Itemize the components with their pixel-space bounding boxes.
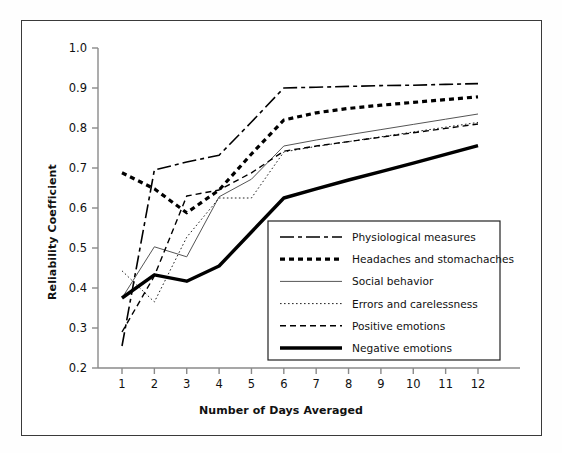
x-tick-label: 9 [377,377,384,391]
x-tick-label: 12 [471,377,486,391]
x-axis-title: Number of Days Averaged [0,404,562,417]
y-axis-title: Reliability Coefficient [46,164,59,300]
x-axis: 123456789101112 [98,368,520,391]
y-tick-label: 1.0 [69,41,87,55]
x-tick-label: 7 [313,377,320,391]
figure-container: 0.20.30.40.50.60.70.80.91.0 123456789101… [0,0,562,453]
legend-label-3: Errors and carelessness [352,298,478,310]
x-tick-label: 3 [183,377,190,391]
x-tick-label: 4 [215,377,222,391]
y-tick-label: 0.9 [69,81,87,95]
x-tick-label: 1 [118,377,125,391]
line-chart: 0.20.30.40.50.60.70.80.91.0 123456789101… [0,0,562,453]
series-line-1 [122,97,478,213]
legend-label-4: Positive emotions [352,320,445,332]
y-tick-label: 0.7 [69,161,87,175]
legend-label-5: Negative emotions [352,342,452,354]
y-tick-label: 0.4 [69,281,87,295]
legend-label-2: Social behavior [352,275,434,287]
x-tick-label: 10 [406,377,421,391]
chart-legend: Physiological measuresHeadaches and stom… [268,221,514,360]
y-tick-label: 0.5 [69,241,87,255]
y-axis: 0.20.30.40.50.60.70.80.91.0 [69,41,98,375]
x-tick-label: 11 [438,377,453,391]
y-tick-label: 0.6 [69,201,87,215]
x-tick-label: 8 [345,377,352,391]
y-tick-label: 0.3 [69,321,87,335]
y-tick-label: 0.2 [69,361,87,375]
x-tick-label: 5 [248,377,255,391]
x-tick-label: 2 [151,377,158,391]
x-tick-label: 6 [280,377,287,391]
legend-label-1: Headaches and stomachaches [352,253,514,265]
legend-label-0: Physiological measures [352,231,476,243]
y-tick-label: 0.8 [69,121,87,135]
